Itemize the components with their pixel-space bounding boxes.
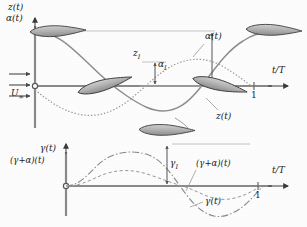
freestream-symbol: U bbox=[11, 88, 19, 98]
z-amplitude-label: zI bbox=[133, 49, 140, 61]
gamma-amplitude-label: γI bbox=[170, 159, 178, 171]
diagram-graphics bbox=[0, 0, 307, 227]
lower-x-axis bbox=[66, 182, 288, 190]
lower-x-tick-label-1: 1 bbox=[255, 191, 261, 200]
lower-leader-lines bbox=[186, 170, 203, 207]
alpha-amplitude-subscript: I bbox=[164, 64, 167, 72]
upper-origin-marker bbox=[32, 83, 37, 88]
airfoil-1 bbox=[30, 25, 86, 38]
gamma-amplitude-subscript: I bbox=[175, 163, 178, 171]
lower-y-axis-label-gamma: γ(t) bbox=[40, 144, 56, 153]
z-trajectory-curve bbox=[35, 32, 268, 111]
alpha-amplitude-label: αI bbox=[158, 60, 167, 72]
upper-y-axis-label-alpha: α(t) bbox=[6, 14, 23, 23]
z-curve-label: z(t) bbox=[216, 112, 231, 121]
upper-x-axis-label: t/T bbox=[272, 66, 285, 75]
upper-y-axis-label-z: z(t) bbox=[8, 3, 23, 12]
airfoil-3 bbox=[139, 124, 195, 136]
z-amplitude-subscript: I bbox=[138, 53, 141, 61]
figure-canvas: z(t) α(t) U∞ zI αI α(t) z(t) t/T 1 γ(t) … bbox=[0, 0, 307, 227]
freestream-velocity-label: U∞ bbox=[11, 89, 24, 101]
gamma-curve bbox=[66, 152, 263, 217]
lower-x-axis-label: t/T bbox=[272, 166, 285, 175]
alpha-curve-label: α(t) bbox=[205, 32, 222, 41]
gamma-plus-alpha-curve-label: (γ+α)(t) bbox=[196, 159, 231, 168]
upper-x-tick-label-1: 1 bbox=[251, 91, 257, 100]
freestream-subscript: ∞ bbox=[19, 93, 24, 101]
lower-y-axis-label-gamma-plus-alpha: (γ+α)(t) bbox=[10, 156, 45, 165]
gamma-curve-label: γ(t) bbox=[205, 197, 221, 206]
